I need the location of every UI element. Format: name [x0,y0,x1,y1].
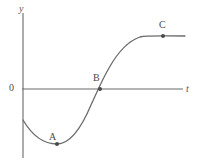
point-c-dot [161,34,165,38]
graph-figure: y t 0 A B C [0,0,201,163]
point-b-label: B [93,73,100,83]
t-axis-label: t [186,84,189,94]
y-axis-label: y [19,4,23,14]
point-a-dot [55,142,59,146]
point-b-dot [98,87,102,91]
origin-label: 0 [9,83,14,93]
point-c-label: C [159,20,166,30]
curve-path [23,36,185,144]
graph-canvas [0,0,201,163]
point-a-label: A [49,132,56,142]
